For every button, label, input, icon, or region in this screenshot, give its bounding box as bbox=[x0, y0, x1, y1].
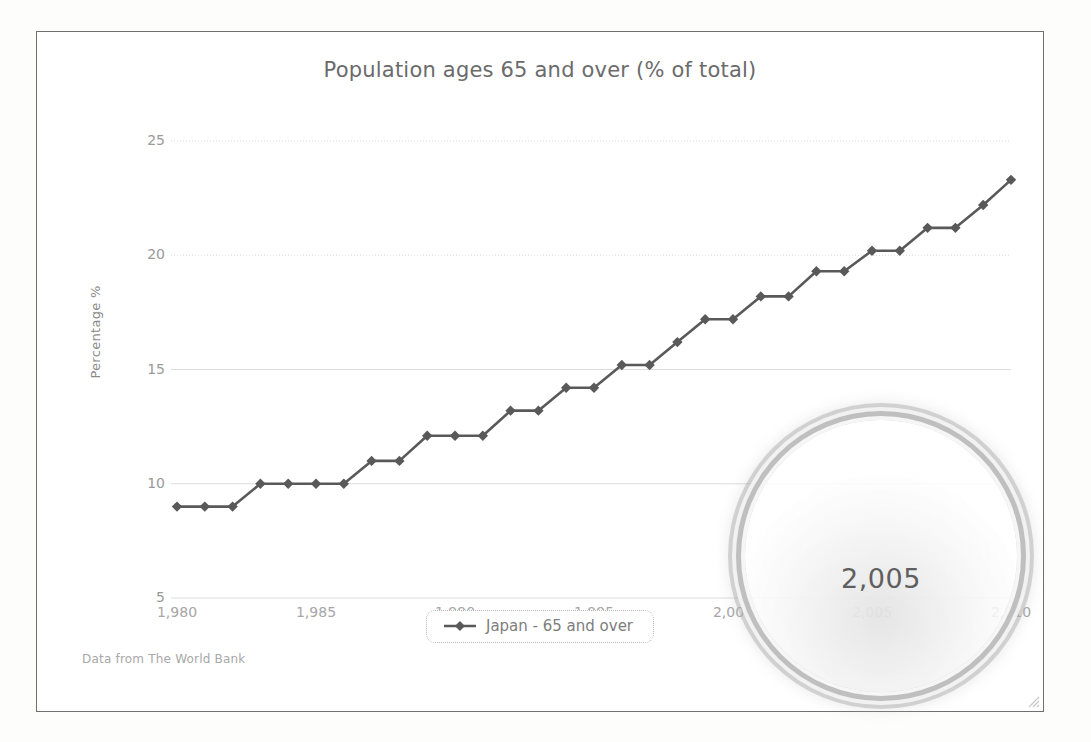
series-plot bbox=[141, 111, 1021, 648]
scanned-page: Population ages 65 and over (% of total)… bbox=[0, 0, 1091, 742]
y-tick-label: 15 bbox=[125, 361, 165, 377]
y-tick-label: 5 bbox=[125, 589, 165, 605]
diamond-marker-icon bbox=[443, 620, 477, 632]
x-tick-label: 1,980 bbox=[157, 604, 197, 620]
resize-grip-icon[interactable] bbox=[1024, 692, 1040, 708]
plot-area bbox=[141, 111, 1021, 648]
y-tick-label: 20 bbox=[125, 246, 165, 262]
chart-title: Population ages 65 and over (% of total) bbox=[37, 58, 1043, 82]
x-tick-label: 2,010 bbox=[991, 604, 1031, 620]
chart-window-frame: Population ages 65 and over (% of total)… bbox=[36, 31, 1044, 712]
x-tick-label: 2,005 bbox=[852, 604, 892, 620]
legend-label: Japan - 65 and over bbox=[486, 617, 633, 635]
gridlines bbox=[171, 141, 1011, 598]
data-source-note: Data from The World Bank bbox=[82, 652, 245, 666]
y-tick-label: 10 bbox=[125, 475, 165, 491]
x-tick-label: 2,000 bbox=[713, 604, 753, 620]
y-tick-label: 25 bbox=[125, 132, 165, 148]
series-japan-65-and-over bbox=[172, 175, 1016, 512]
chart-legend[interactable]: Japan - 65 and over bbox=[426, 610, 654, 643]
x-tick-label: 1,985 bbox=[296, 604, 336, 620]
y-axis-label: Percentage % bbox=[88, 285, 103, 378]
